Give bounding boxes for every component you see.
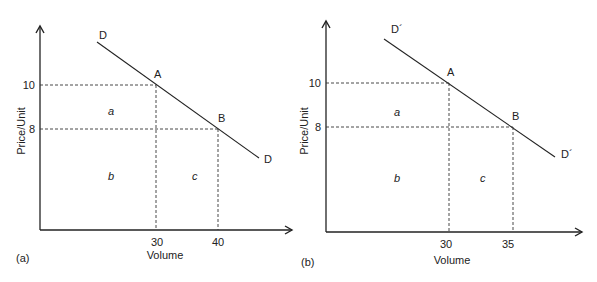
panel-a: D D A B a b c 10 8 30 40 Volume Price/Un…	[15, 26, 292, 264]
panel-tag: (a)	[16, 252, 29, 264]
demand-curve	[384, 39, 555, 157]
y-axis-label: Price/Unit	[298, 107, 310, 155]
point-b-label: B	[218, 112, 225, 124]
region-a-label: a	[394, 106, 400, 118]
x-tick-30: 30	[151, 236, 163, 248]
x-tick-35: 35	[502, 238, 514, 250]
x-tick-40: 40	[212, 236, 224, 248]
x-axis-label: Volume	[434, 254, 471, 266]
y-tick-8: 8	[29, 123, 35, 135]
y-tick-10: 10	[309, 77, 321, 89]
y-tick-10: 10	[23, 79, 35, 91]
point-a-label: A	[447, 66, 455, 78]
region-b-label: b	[394, 172, 400, 184]
point-a-label: A	[154, 68, 162, 80]
panel-b: D´ D´ A B a b c 10 8 30 35 Volume Price/…	[298, 21, 582, 268]
region-a-label: a	[108, 105, 114, 117]
x-axis-label: Volume	[147, 249, 184, 261]
panel-tag: (b)	[301, 256, 314, 268]
y-axis-label: Price/Unit	[15, 107, 27, 155]
curve-label-start: D	[99, 29, 107, 41]
point-b-label: B	[512, 110, 519, 122]
curve-label-end: D	[264, 153, 272, 165]
region-c-label: c	[192, 170, 198, 182]
region-b-label: b	[108, 170, 114, 182]
y-tick-8: 8	[315, 121, 321, 133]
x-tick-30: 30	[440, 238, 452, 250]
region-c-label: c	[480, 172, 486, 184]
curve-label-start: D´	[391, 23, 403, 35]
demand-curve	[97, 42, 259, 158]
figure: D D A B a b c 10 8 30 40 Volume Price/Un…	[0, 0, 597, 282]
curve-label-end: D´	[561, 148, 573, 160]
